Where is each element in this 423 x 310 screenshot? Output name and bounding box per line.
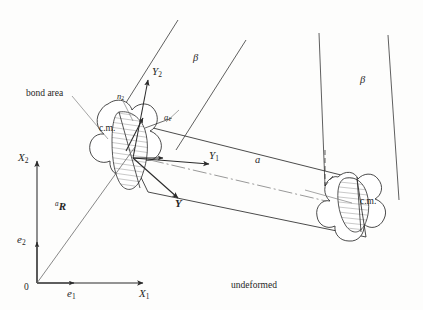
beta-boundary-right-inner xyxy=(319,33,325,186)
origin-label: 0 xyxy=(24,283,29,293)
beta-right-label: β xyxy=(360,75,365,86)
position-vector-group xyxy=(37,147,135,283)
beta-boundary-left-outer xyxy=(176,40,246,150)
unit-vectors-group xyxy=(37,242,74,283)
rod-length-a-label: a xyxy=(255,155,260,166)
beta-boundary-right-outer xyxy=(388,35,399,200)
cross-dimension-a1-label: a1 xyxy=(164,113,171,123)
cm-right-label: c.m. xyxy=(360,197,376,207)
body-axis-y1-label: Y1 xyxy=(209,150,219,162)
boundary-lines-group xyxy=(117,20,399,200)
unit-vector-e2-label: e2 xyxy=(17,234,26,246)
normal-n2-label: n2 xyxy=(117,92,124,102)
axis-x1-label: X1 xyxy=(139,288,149,300)
position-vector-label: aR xyxy=(55,201,66,212)
position-vector-aR xyxy=(37,147,135,283)
cm-left-label: c.m. xyxy=(99,124,115,134)
undeformed-caption: undeformed xyxy=(231,281,277,291)
figure-canvas: bond area c.m. c.m. undeformed 0 X2 X1 e… xyxy=(0,0,423,310)
axis-x2-label: X2 xyxy=(18,152,28,164)
beta-left-label: β xyxy=(193,53,198,64)
unit-vector-e1-label: e1 xyxy=(67,288,76,300)
bond-area-label: bond area xyxy=(26,89,63,99)
body-axis-y2-label: Y2 xyxy=(152,66,162,78)
body-vector-Y-label: Y xyxy=(175,198,182,209)
